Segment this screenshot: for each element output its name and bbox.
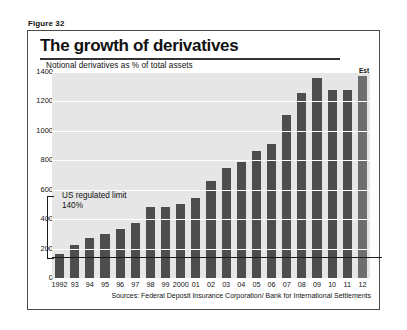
chart-title: The growth of derivatives <box>40 36 238 56</box>
gridline <box>52 219 370 220</box>
y-axis-tick: 1400 <box>36 67 53 76</box>
gridline <box>52 131 370 132</box>
bar <box>100 234 109 278</box>
bar <box>206 181 215 278</box>
bar <box>146 207 155 278</box>
bar <box>116 229 125 278</box>
bar <box>282 115 291 278</box>
annotation-line-1: US regulated limit <box>62 191 127 200</box>
gridline <box>52 249 370 250</box>
plot-area <box>52 72 370 278</box>
figure-container: Figure 32 The growth of derivatives Noti… <box>0 0 407 330</box>
bar <box>222 168 231 278</box>
gridline <box>52 160 370 161</box>
bar <box>191 198 200 278</box>
bar <box>343 90 352 278</box>
y-axis-tick: 1200 <box>36 96 53 105</box>
chart-subtitle: Notional derivatives as % of total asset… <box>46 61 193 70</box>
figure-label: Figure 32 <box>28 19 64 28</box>
bar <box>131 223 140 278</box>
gridline <box>52 72 370 73</box>
bar-series <box>52 72 370 278</box>
bar <box>297 93 306 278</box>
regulated-limit-line <box>52 257 382 258</box>
x-axis-tick: 12 <box>348 280 377 289</box>
bar <box>252 151 261 278</box>
annotation-text: US regulated limit 140% <box>62 191 127 212</box>
gridline <box>52 101 370 102</box>
bar <box>328 90 337 278</box>
x-axis-labels: 1992939495969798992000010203040506070809… <box>52 280 370 292</box>
annotation-bracket <box>47 196 54 260</box>
title-divider <box>40 58 340 60</box>
bar <box>176 204 185 278</box>
bar <box>161 207 170 278</box>
estimate-label: Est <box>359 67 369 74</box>
y-axis-tick: 1000 <box>36 126 53 135</box>
annotation-line-2: 140% <box>62 201 83 210</box>
bar <box>70 245 79 278</box>
source-note: Sources: Federal Deposit Insurance Corpo… <box>111 292 371 299</box>
